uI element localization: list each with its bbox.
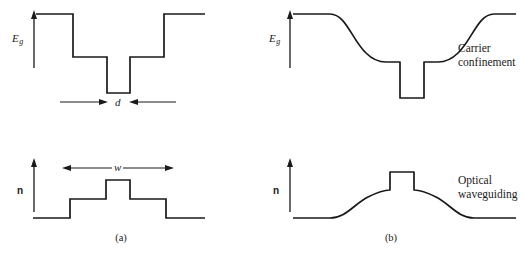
panel-a-index-curve — [33, 180, 205, 218]
panel-a-w-label: w — [112, 162, 123, 173]
panel-a-n-axis-arrowhead — [31, 158, 37, 167]
panel-a: Eg d n w (a) — [0, 0, 261, 256]
optical-waveguiding-annotation: Optical waveguiding — [458, 173, 517, 201]
panel-a-d-label: d — [113, 97, 123, 108]
panel-a-eg-axis-arrowhead — [31, 10, 37, 19]
panel-a-eg-axis-label: Eg — [12, 33, 23, 46]
panel-a-w-arrowhead-right — [165, 165, 174, 171]
optical-waveguiding-line1: Optical — [458, 173, 517, 187]
carrier-confinement-line2: confinement — [458, 55, 515, 69]
panel-b: Eg Carrier confinement n Optical wavegui… — [262, 0, 523, 256]
panel-a-bandgap-curve — [36, 14, 205, 93]
panel-a-d-arrowhead-right — [129, 99, 138, 105]
optical-waveguiding-line2: waveguiding — [458, 187, 517, 201]
carrier-confinement-annotation: Carrier confinement — [458, 41, 515, 69]
panel-a-w-arrowhead-left — [62, 165, 71, 171]
panel-b-eg-axis-arrowhead — [287, 10, 293, 19]
panel-b-graphics — [262, 0, 523, 256]
figure-container: Eg d n w (a) Eg Carrier confine — [0, 0, 523, 256]
panel-a-d-arrowhead-left — [99, 99, 108, 105]
panel-b-caption: (b) — [370, 233, 412, 244]
panel-a-graphics — [0, 0, 261, 256]
panel-a-n-axis-label: n — [17, 186, 23, 196]
panel-b-n-axis-label: n — [273, 186, 279, 196]
panel-b-eg-axis-label: Eg — [269, 33, 280, 46]
carrier-confinement-line1: Carrier — [458, 41, 515, 55]
panel-a-caption: (a) — [100, 233, 142, 244]
panel-b-n-axis-arrowhead — [287, 158, 293, 167]
